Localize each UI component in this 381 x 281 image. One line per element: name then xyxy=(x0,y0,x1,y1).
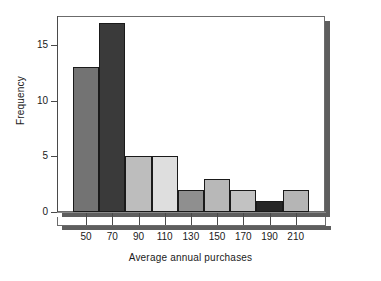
bar xyxy=(125,156,151,212)
bar xyxy=(204,179,230,212)
x-tick-mark xyxy=(296,213,297,225)
x-tick-mark xyxy=(165,213,166,225)
bar-series xyxy=(58,17,324,212)
bar xyxy=(256,201,282,212)
bar xyxy=(99,23,125,212)
x-tick-mark xyxy=(112,213,113,225)
x-tick-mark xyxy=(217,213,218,225)
y-tick-label: 15 xyxy=(8,40,48,50)
x-axis-title: Average annual purchases xyxy=(0,252,381,263)
x-ruler-shadow xyxy=(62,226,331,230)
bar xyxy=(230,190,256,212)
x-tick-label: 210 xyxy=(276,231,316,242)
x-tick-mark xyxy=(139,213,140,225)
x-tick-mark xyxy=(191,213,192,225)
y-tick-label: 5 xyxy=(8,151,48,161)
bar xyxy=(152,156,178,212)
y-tick-mark xyxy=(51,156,58,157)
bar xyxy=(73,67,99,212)
histogram-figure: 051015 Frequency 50709011013015017019021… xyxy=(0,0,381,281)
y-tick-label: 0 xyxy=(8,207,48,217)
bar xyxy=(178,190,204,212)
y-tick-mark xyxy=(51,101,58,102)
x-tick-mark xyxy=(270,213,271,225)
bar xyxy=(283,190,309,212)
x-tick-mark xyxy=(86,213,87,225)
y-tick-mark xyxy=(51,45,58,46)
y-axis-title: Frequency xyxy=(15,51,26,151)
x-tick-mark xyxy=(243,213,244,225)
